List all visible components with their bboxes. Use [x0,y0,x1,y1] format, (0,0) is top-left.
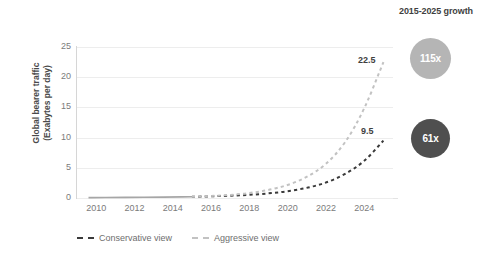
legend-dash-icon-aggressive [192,237,209,239]
data-label-aggressive: 22.5 [358,55,376,65]
growth-annotation-title: 2015-2025 growth [396,6,476,17]
growth-bubble-aggressive: 115x [410,38,451,79]
x-tick-label: 2010 [76,203,116,213]
legend-item-conservative[interactable]: Conservative view [77,233,172,243]
legend-label-conservative: Conservative view [99,233,172,243]
x-tick-label: 2022 [306,203,346,213]
x-tick-label: 2020 [268,203,308,213]
x-tick-label: 2014 [153,203,193,213]
series-line-conservative-view [192,141,384,197]
y-tick-label: 10 [49,133,71,142]
legend-label-aggressive: Aggressive view [214,233,279,243]
y-tick-label: 0 [49,193,71,202]
series-layer [77,47,393,198]
x-tick-label: 2016 [191,203,231,213]
x-tick-label: 2012 [114,203,154,213]
y-tick-label: 5 [49,163,71,172]
chart-legend: Conservative view Aggressive view [77,233,279,243]
data-label-conservative: 9.5 [361,126,374,136]
growth-bubble-conservative: 61x [411,119,450,158]
legend-item-aggressive[interactable]: Aggressive view [192,233,279,243]
growth-bubble-aggressive-value: 115x [420,53,441,64]
series-line-historical [88,197,191,198]
series-line-aggressive-view [192,62,384,197]
y-tick-label: 15 [49,102,71,111]
y-tick-label: 20 [49,72,71,81]
x-tick-label: 2018 [229,203,269,213]
y-tick-label: 25 [49,42,71,51]
growth-bubble-conservative-value: 61x [422,133,438,144]
x-tick-label: 2024 [344,203,384,213]
y-axis-title-line1: Global bearer traffic [31,23,42,183]
plot-area [77,47,393,198]
legend-dash-icon-conservative [77,237,94,239]
chart-root: 2015-2025 growth 115x 61x Global bearer … [0,0,479,255]
